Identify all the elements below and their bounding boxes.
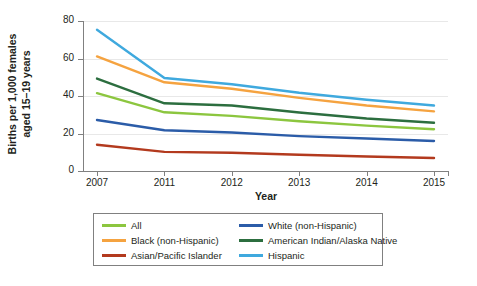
y-axis-tick-label: 20	[34, 127, 74, 138]
legend-swatch	[239, 254, 263, 257]
legend-item: White (non-Hispanic)	[239, 218, 397, 233]
y-axis-tick	[78, 171, 83, 172]
legend-item: All	[102, 218, 222, 233]
x-axis-end-tick	[448, 172, 449, 176]
x-axis-tick-label: 2013	[269, 177, 329, 188]
x-axis-tick-label: 2015	[404, 177, 464, 188]
legend-swatch	[102, 254, 126, 257]
legend-label: White (non-Hispanic)	[268, 220, 357, 231]
x-axis-tick-label: 2007	[67, 177, 127, 188]
x-axis-tick	[434, 172, 435, 176]
x-axis-tick-label: 2012	[202, 177, 262, 188]
legend-label: Black (non-Hispanic)	[131, 235, 219, 246]
gridline	[83, 96, 448, 97]
legend-label: All	[131, 220, 142, 231]
legend-swatch	[239, 239, 263, 242]
legend-item: American Indian/Alaska Native	[239, 233, 397, 248]
gridline	[83, 21, 448, 22]
x-axis-line	[83, 171, 449, 172]
x-axis-label: Year	[83, 190, 449, 202]
y-axis-tick-label: 80	[34, 14, 74, 25]
plot-area	[83, 21, 448, 171]
legend-label: American Indian/Alaska Native	[268, 235, 397, 246]
legend-item: Black (non-Hispanic)	[102, 233, 222, 248]
legend-swatch	[239, 224, 263, 227]
y-axis-tick	[78, 59, 83, 60]
legend-item: Asian/Pacific Islander	[102, 248, 222, 263]
x-axis-tick	[232, 172, 233, 176]
y-axis-tick-label: 40	[34, 89, 74, 100]
y-axis-tick	[78, 134, 83, 135]
y-axis-tick-label: 0	[34, 164, 74, 175]
y-axis-line	[83, 21, 84, 172]
x-axis-tick-label: 2011	[134, 177, 194, 188]
x-axis-tick	[367, 172, 368, 176]
y-axis-tick-label: 60	[34, 52, 74, 63]
x-axis-tick	[299, 172, 300, 176]
legend-swatch	[102, 224, 126, 227]
y-axis-tick	[78, 96, 83, 97]
legend-item: Hispanic	[239, 248, 397, 263]
legend-column-right: White (non-Hispanic)American Indian/Alas…	[239, 218, 397, 263]
gridline	[83, 59, 448, 60]
y-axis-tick	[78, 21, 83, 22]
legend-swatch	[102, 239, 126, 242]
legend-label: Asian/Pacific Islander	[131, 250, 222, 261]
gridline	[83, 134, 448, 135]
x-axis-tick-label: 2014	[337, 177, 397, 188]
teen-birth-rate-line-chart: Births per 1,000 females aged 15–19 year…	[0, 0, 477, 286]
x-axis-tick	[97, 172, 98, 176]
x-axis-tick	[164, 172, 165, 176]
y-axis-label: Births per 1,000 females aged 15–19 year…	[2, 14, 36, 174]
legend-label: Hispanic	[268, 250, 304, 261]
y-axis-label-line2: aged 15–19 years	[18, 14, 34, 174]
legend-column-left: AllBlack (non-Hispanic)Asian/Pacific Isl…	[102, 218, 222, 263]
legend: AllBlack (non-Hispanic)Asian/Pacific Isl…	[93, 213, 383, 266]
